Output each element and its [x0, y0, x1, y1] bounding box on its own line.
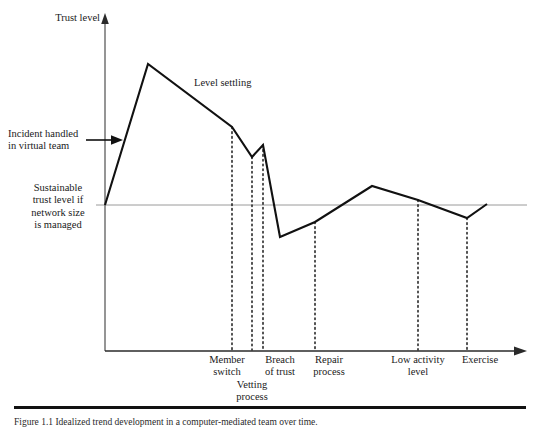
annotation-incident-handled: Incident handled in virtual team — [8, 128, 104, 153]
y-axis-arrow-icon — [101, 13, 109, 24]
figure-caption: Figure 1.1 Idealized trend development i… — [14, 417, 526, 427]
x-label-exercise: Exercise — [450, 354, 510, 366]
x-axis-arrow-icon — [514, 347, 527, 356]
x-label-breach-of-trust: Breach of trust — [252, 354, 308, 379]
x-label-member-switch: Member switch — [196, 354, 258, 379]
annotation-level-settling: Level settling — [194, 77, 251, 89]
incident-callout-arrow-icon — [111, 135, 123, 145]
x-label-repair-process: Repair process — [301, 354, 357, 379]
trust-level-line — [105, 64, 487, 237]
annotation-sustainable-trust-level: Sustainable trust level if network size … — [14, 182, 102, 232]
x-label-vetting-process: Vetting process — [221, 379, 283, 404]
caption-divider-rule — [14, 406, 526, 409]
x-label-low-activity-level: Low activity level — [385, 354, 451, 379]
figure-root: Trust level Incident handled in virtual … — [0, 0, 540, 427]
y-axis-title: Trust level — [42, 12, 100, 24]
